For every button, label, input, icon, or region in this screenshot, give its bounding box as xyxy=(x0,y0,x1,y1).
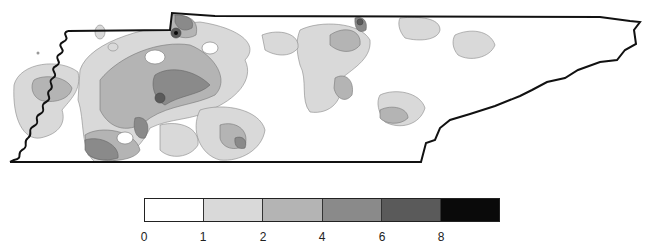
legend-swatch-0-1 xyxy=(145,199,204,221)
contour-spot xyxy=(108,43,118,51)
contour-spot xyxy=(95,25,105,39)
legend-tick-label: 2 xyxy=(260,230,267,244)
legend-tick-label: 4 xyxy=(319,230,326,244)
legend-tick-label: 0 xyxy=(141,230,148,244)
contour-spot xyxy=(37,52,40,55)
legend-swatch-6-8 xyxy=(382,199,441,221)
legend-bar xyxy=(144,198,500,222)
legend-swatch-1-2 xyxy=(204,199,263,221)
legend-tick-label: 8 xyxy=(438,230,445,244)
legend-swatch-2-4 xyxy=(263,199,322,221)
contour-map xyxy=(0,0,645,190)
legend-tick-label: 1 xyxy=(200,230,207,244)
legend-swatch-4-6 xyxy=(323,199,382,221)
legend-tick-label: 6 xyxy=(379,230,386,244)
legend-swatch-8-plus xyxy=(441,199,499,221)
